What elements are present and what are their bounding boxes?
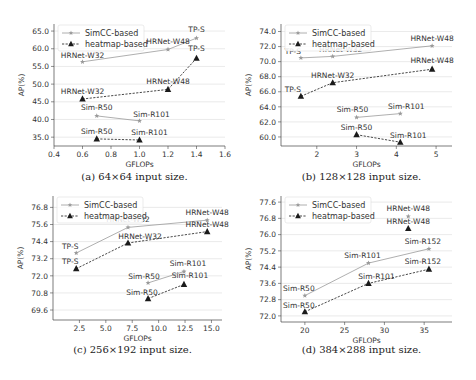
point-annotation: Sim-R50 [337, 105, 369, 114]
point-annotation: HRNet-W32 [118, 232, 162, 241]
y-tick-label: 72.0 [259, 42, 276, 51]
point-annotation: HRNet-W48 [410, 34, 454, 43]
y-tick-label: 72.0 [31, 272, 48, 281]
heatmap-point-marker [353, 131, 359, 137]
y-tick-label: 70.8 [31, 289, 48, 298]
y-tick-label: 64.0 [259, 103, 276, 112]
x-tick-label: 4 [394, 150, 399, 159]
x-tick-label: 5 [434, 150, 439, 159]
x-tick-label: 35 [419, 326, 429, 335]
y-tick-label: 75.2 [259, 247, 276, 256]
point-annotation: Sim-R50 [128, 272, 160, 281]
y-axis-label: AP(%) [17, 74, 26, 97]
simcc-point-marker [398, 111, 403, 116]
legend-label: heatmap-based [312, 40, 375, 49]
subfigure-caption: (b) 128×128 input size. [302, 171, 422, 182]
figure-canvas: 35.040.045.050.055.060.065.00.40.60.81.0… [0, 0, 476, 380]
simcc-point-marker [430, 43, 435, 48]
point-annotation: Sim-R101 [133, 110, 170, 119]
y-tick-label: 60.0 [259, 133, 276, 142]
x-tick-label: 1.4 [191, 150, 203, 159]
point-annotation: Sim-R50 [341, 123, 373, 132]
chart-panel-b: 60.062.064.066.068.070.072.074.02345GFLO… [244, 24, 454, 182]
y-tick-label: 75.6 [31, 220, 48, 229]
chart-panel-d: 72.072.873.674.475.276.076.877.620253035… [244, 196, 452, 355]
point-annotation: TP-S [61, 257, 79, 266]
y-tick-label: 55.0 [32, 62, 49, 71]
heatmap-point-marker [181, 281, 187, 287]
heatmap-series-line [97, 139, 140, 140]
point-annotation: Sim-R101 [390, 131, 427, 140]
y-tick-label: 66.0 [259, 87, 276, 96]
subfigure-caption: (d) 384×288 input size. [302, 344, 422, 355]
y-tick-label: 69.6 [31, 306, 48, 315]
y-tick-label: 40.0 [32, 115, 49, 124]
x-tick-label: 3 [354, 150, 359, 159]
point-annotation: Sim-R101 [358, 272, 395, 281]
legend-label: SimCC-based [312, 29, 365, 38]
x-tick-label: 5.0 [100, 324, 112, 333]
y-tick-label: 77.6 [259, 198, 276, 207]
point-annotation: TP-S [61, 242, 79, 251]
point-annotation: Sim-R152 [405, 257, 442, 266]
y-tick-label: 65.0 [32, 27, 49, 36]
y-tick-label: 50.0 [32, 80, 49, 89]
heatmap-point-marker [73, 265, 79, 271]
legend-label: heatmap-based [84, 212, 147, 221]
point-annotation: HRNet-W32 [311, 71, 355, 80]
y-tick-label: 72.0 [259, 312, 276, 321]
y-tick-label: 74.4 [259, 263, 276, 272]
y-tick-label: 73.6 [259, 279, 276, 288]
point-annotation: Sim-R50 [81, 127, 113, 136]
y-tick-label: 60.0 [32, 44, 49, 53]
x-tick-label: 0.6 [77, 150, 89, 159]
heatmap-point-marker [94, 135, 100, 141]
x-axis-label: GFLOPs [125, 160, 153, 169]
subfigure-caption: (a) 64×64 input size. [81, 171, 187, 182]
point-annotation: HRNet-W48 [387, 204, 431, 213]
simcc-point-marker [94, 113, 99, 118]
y-tick-label: 35.0 [32, 133, 49, 142]
point-annotation: Sim-R101 [388, 102, 425, 111]
x-tick-label: 25 [340, 326, 350, 335]
chart-panel-a: 35.040.045.050.055.060.065.00.40.60.81.0… [17, 24, 231, 182]
y-axis-label: AP(%) [16, 247, 25, 270]
heatmap-point-marker [165, 86, 171, 92]
x-tick-label: 0.8 [105, 150, 117, 159]
legend-label: SimCC-based [85, 29, 138, 38]
simcc-point-marker [426, 246, 431, 251]
x-tick-label: 15.0 [203, 324, 220, 333]
y-tick-label: 76.8 [259, 214, 276, 223]
y-tick-label: 76.8 [31, 203, 48, 212]
y-tick-label: 45.0 [32, 97, 49, 106]
simcc-point-marker [146, 280, 151, 285]
heatmap-point-marker [405, 225, 411, 231]
point-annotation: HRNet-W32 [61, 51, 105, 60]
x-tick-label: 2.5 [73, 324, 85, 333]
point-annotation: Sim-R101 [131, 128, 168, 137]
point-annotation: HRNet-W48 [410, 56, 454, 65]
chart-panel-c: 69.670.872.073.274.475.676.82.55.07.510.… [16, 196, 229, 355]
heatmap-point-marker [204, 228, 210, 234]
y-axis-label: AP(%) [244, 248, 253, 271]
x-tick-label: 12.5 [177, 324, 194, 333]
x-tick-label: 2 [314, 150, 319, 159]
point-annotation: HRNet-W32 [61, 87, 105, 96]
point-annotation: HRNet-W48 [186, 208, 230, 217]
y-tick-label: 68.0 [259, 72, 276, 81]
subfigure-caption: (c) 256×192 input size. [73, 344, 192, 355]
point-annotation: Sim-R50 [81, 103, 113, 112]
point-annotation: Sim-R50 [283, 284, 315, 293]
x-tick-label: 30 [380, 326, 390, 335]
heatmap-point-marker [429, 66, 435, 72]
point-annotation: HRNet-W48 [387, 217, 431, 226]
x-tick-label: 20 [300, 326, 310, 335]
x-axis-label: GFLOPs [123, 334, 151, 343]
simcc-point-marker [74, 250, 79, 255]
y-tick-label: 76.0 [259, 230, 276, 239]
simcc-point-marker [366, 260, 371, 265]
legend-label: heatmap-based [85, 40, 148, 49]
y-tick-label: 74.0 [259, 27, 276, 36]
y-tick-label: 72.8 [259, 295, 276, 304]
point-annotation: Sim-R152 [405, 237, 442, 246]
